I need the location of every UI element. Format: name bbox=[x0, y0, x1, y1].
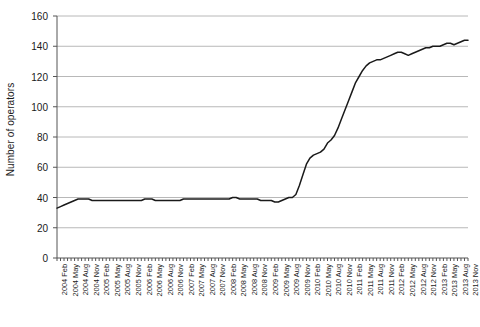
x-axis-tick-label: 2006 Feb bbox=[145, 264, 154, 295]
x-axis-tick-label: 2004 May bbox=[71, 264, 80, 296]
x-axis-tick-label: 2013 May bbox=[450, 264, 459, 296]
x-axis-tick-label: 2011 Feb bbox=[355, 264, 364, 295]
x-axis-tick-label: 2009 Aug bbox=[292, 264, 301, 295]
x-axis-tick-label: 2007 Nov bbox=[218, 264, 227, 296]
x-axis-tick-label: 2012 May bbox=[408, 264, 417, 296]
x-axis-tick-label: 2005 Aug bbox=[123, 264, 132, 295]
x-axis-tick-label: 2008 Nov bbox=[260, 264, 269, 296]
gridlines bbox=[57, 16, 468, 228]
x-axis-tick-label: 2012 Aug bbox=[419, 264, 428, 295]
x-axis-tick-label: 2011 May bbox=[366, 264, 375, 296]
y-axis-ticks bbox=[53, 16, 57, 258]
x-axis-tick-label: 2010 May bbox=[324, 264, 333, 296]
x-axis-tick-label: 2013 Aug bbox=[461, 264, 470, 295]
x-axis-tick-label: 2006 Aug bbox=[166, 264, 175, 295]
x-axis-tick-label: 2005 Feb bbox=[102, 264, 111, 295]
x-axis-tick-label: 2008 Feb bbox=[229, 264, 238, 295]
x-axis-tick-label: 2007 May bbox=[197, 264, 206, 296]
x-axis-tick-label: 2013 Feb bbox=[440, 264, 449, 295]
x-axis-tick-label: 2008 May bbox=[239, 264, 248, 296]
x-axis-tick-label: 2012 Nov bbox=[429, 264, 438, 296]
x-axis-tick-label: 2008 Aug bbox=[250, 264, 259, 295]
x-axis-tick-label: 2009 May bbox=[282, 264, 291, 296]
x-axis-tick-label: 2004 Aug bbox=[81, 264, 90, 295]
x-axis-tick-label: 2004 Nov bbox=[92, 264, 101, 296]
x-axis-tick-label: 2007 Feb bbox=[187, 264, 196, 295]
x-axis-tick-label: 2012 Feb bbox=[397, 264, 406, 295]
x-axis-tick-label: 2006 May bbox=[155, 264, 164, 296]
x-axis-tick-label: 2010 Aug bbox=[334, 264, 343, 295]
x-axis-tick-label: 2007 Aug bbox=[208, 264, 217, 295]
x-axis-tick-label: 2004 Feb bbox=[60, 264, 69, 295]
x-axis-tick-label: 2010 Nov bbox=[345, 264, 354, 296]
x-axis-tick-label: 2009 Nov bbox=[303, 264, 312, 296]
x-axis-tick-label: 2013 Nov bbox=[471, 264, 480, 296]
x-axis-tick-label: 2006 Nov bbox=[176, 264, 185, 296]
data-series-line bbox=[57, 40, 468, 208]
x-axis-tick-label: 2009 Feb bbox=[271, 264, 280, 295]
x-axis-tick-label: 2005 May bbox=[113, 264, 122, 296]
x-axis-tick-label: 2010 Feb bbox=[313, 264, 322, 295]
x-axis-labels: 2004 Feb2004 May2004 Aug2004 Nov2005 Feb… bbox=[0, 262, 477, 327]
x-axis-tick-label: 2011 Nov bbox=[387, 264, 396, 295]
x-axis-tick-label: 2005 Nov bbox=[134, 264, 143, 296]
x-axis-tick-label: 2011 Aug bbox=[376, 264, 385, 295]
